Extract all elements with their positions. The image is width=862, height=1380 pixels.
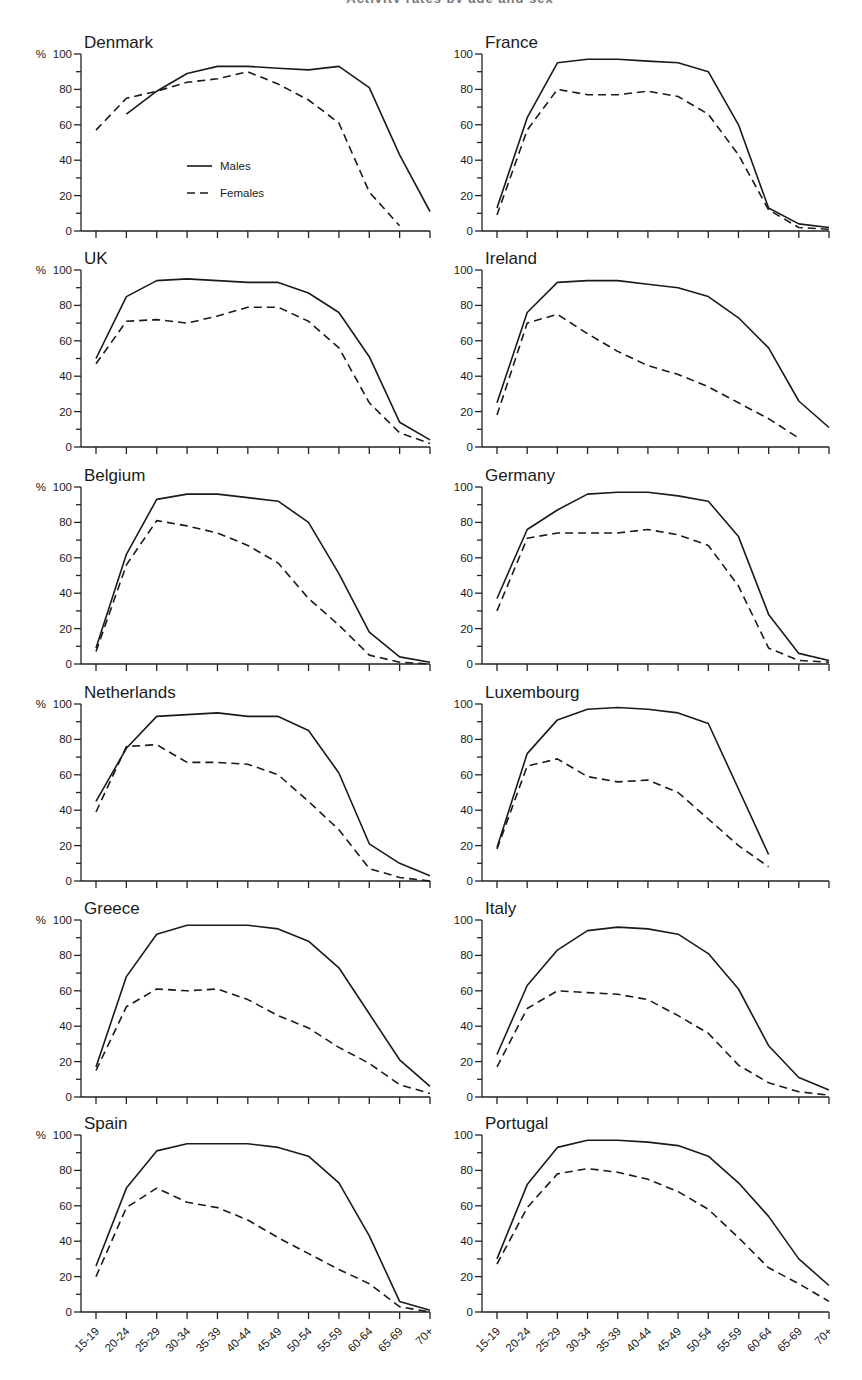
y-unit-label: % <box>36 1129 46 1141</box>
panel-title: Ireland <box>485 249 537 268</box>
males-line <box>96 925 430 1086</box>
y-tick-label: 60 <box>460 335 473 347</box>
y-unit-label: % <box>36 48 46 60</box>
x-tick-label: 65-69 <box>775 1325 804 1354</box>
y-tick-label: 20 <box>59 406 72 418</box>
females-line <box>96 72 400 226</box>
y-unit-label: % <box>36 698 46 710</box>
y-tick-label: 40 <box>460 804 473 816</box>
y-tick-label: 60 <box>59 985 72 997</box>
panel-title: UK <box>84 249 108 268</box>
panel-title: Luxembourg <box>485 683 580 702</box>
males-line <box>96 279 430 440</box>
y-tick-label: 20 <box>59 1271 72 1283</box>
y-tick-label: 20 <box>59 623 72 635</box>
y-tick-label: 60 <box>59 335 72 347</box>
panel-denmark: Denmark020406080100%MalesFemales <box>36 33 430 238</box>
y-tick-label: 80 <box>59 299 72 311</box>
y-tick-label: 60 <box>59 769 72 781</box>
panel-france: France020406080100 <box>454 33 829 238</box>
panel-belgium: Belgium020406080100% <box>36 466 430 671</box>
y-tick-label: 0 <box>66 1306 72 1318</box>
x-tick-label: 35-39 <box>194 1325 223 1354</box>
legend: MalesFemales <box>187 160 264 199</box>
x-tick-label: 15-19 <box>473 1325 502 1354</box>
y-tick-label: 60 <box>460 985 473 997</box>
y-tick-label: 80 <box>59 733 72 745</box>
females-line <box>96 745 430 881</box>
y-tick-label: 80 <box>460 949 473 961</box>
x-tick-label: 55-59 <box>315 1325 344 1354</box>
x-tick-label: 70+ <box>413 1325 435 1347</box>
x-tick-label: 65-69 <box>376 1325 405 1354</box>
y-tick-label: 0 <box>467 1306 473 1318</box>
y-tick-label: 80 <box>59 516 72 528</box>
y-tick-label: 80 <box>59 949 72 961</box>
y-tick-label: 100 <box>454 48 473 60</box>
y-tick-label: 100 <box>53 1129 72 1141</box>
panel-title: Portugal <box>485 1114 548 1133</box>
males-line <box>126 66 430 211</box>
panel-luxembourg: Luxembourg020406080100 <box>454 683 829 888</box>
y-tick-label: 0 <box>66 875 72 887</box>
y-tick-label: 20 <box>460 406 473 418</box>
panel-ireland: Ireland020406080100 <box>454 249 829 454</box>
y-tick-label: 80 <box>460 83 473 95</box>
panel-italy: Italy020406080100 <box>454 899 829 1104</box>
males-line <box>497 1140 829 1285</box>
x-tick-label: 55-59 <box>715 1325 744 1354</box>
y-tick-label: 100 <box>53 914 72 926</box>
x-tick-label: 25-29 <box>133 1325 162 1354</box>
females-line <box>497 991 829 1095</box>
y-tick-label: 40 <box>59 1020 72 1032</box>
y-tick-label: 80 <box>59 83 72 95</box>
x-tick-label: 70+ <box>812 1325 834 1347</box>
x-tick-label: 20-24 <box>503 1325 533 1355</box>
males-line <box>96 1144 430 1310</box>
x-tick-label: 60-64 <box>345 1325 375 1355</box>
y-tick-label: 60 <box>460 1200 473 1212</box>
panel-title: France <box>485 33 538 52</box>
panel-greece: Greece020406080100% <box>36 899 430 1104</box>
males-line <box>497 59 829 227</box>
panel-germany: Germany020406080100 <box>454 466 829 671</box>
females-line <box>96 989 430 1094</box>
y-tick-label: 40 <box>460 370 473 382</box>
y-tick-label: 20 <box>460 840 473 852</box>
y-tick-label: 80 <box>460 516 473 528</box>
y-tick-label: 20 <box>460 1271 473 1283</box>
panel-title: Spain <box>84 1114 127 1133</box>
x-tick-label: 45-49 <box>654 1325 683 1354</box>
y-tick-label: 20 <box>460 190 473 202</box>
x-tick-label: 30-34 <box>564 1325 594 1355</box>
y-tick-label: 60 <box>59 119 72 131</box>
y-tick-label: 80 <box>460 1164 473 1176</box>
y-tick-label: 100 <box>454 914 473 926</box>
x-tick-label: 40-44 <box>224 1325 254 1355</box>
x-tick-label: 35-39 <box>594 1325 623 1354</box>
females-line <box>96 1188 430 1312</box>
y-tick-label: 100 <box>53 698 72 710</box>
panel-title: Belgium <box>84 466 145 485</box>
panel-netherlands: Netherlands020406080100% <box>36 683 430 888</box>
y-tick-label: 20 <box>460 1056 473 1068</box>
panel-title: Denmark <box>84 33 153 52</box>
x-tick-label: 45-49 <box>254 1325 283 1354</box>
panel-portugal: Portugal02040608010015-1920-2425-2930-34… <box>454 1114 835 1354</box>
y-tick-label: 100 <box>53 481 72 493</box>
x-tick-label: 25-29 <box>533 1325 562 1354</box>
panel-title: Germany <box>485 466 555 485</box>
small-multiples-chart: Denmark020406080100%MalesFemalesFrance02… <box>0 0 862 1380</box>
legend-females-label: Females <box>220 187 264 199</box>
males-line <box>96 713 430 876</box>
y-tick-label: 100 <box>53 264 72 276</box>
y-tick-label: 60 <box>59 552 72 564</box>
legend-males-label: Males <box>220 160 251 172</box>
y-tick-label: 0 <box>467 441 473 453</box>
y-tick-label: 100 <box>454 698 473 710</box>
y-tick-label: 60 <box>460 769 473 781</box>
y-unit-label: % <box>36 264 46 276</box>
panel-title: Italy <box>485 899 517 918</box>
x-tick-label: 60-64 <box>745 1325 775 1355</box>
females-line <box>96 307 430 443</box>
